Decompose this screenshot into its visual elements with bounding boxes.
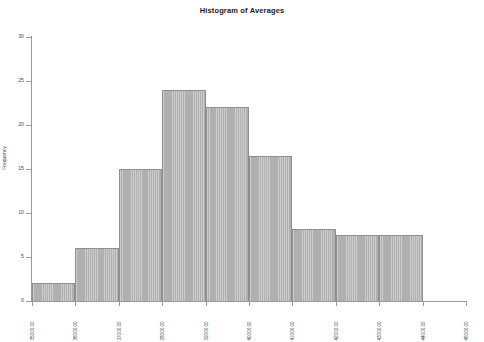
y-axis-tick-label-wrap: 5 <box>0 254 24 255</box>
x-axis-tick-label-wrap: 36000.00 <box>75 308 76 309</box>
y-axis-tick-label: 0 <box>2 298 24 303</box>
y-axis-tick-label: 15 <box>2 166 24 171</box>
histogram-bar <box>119 169 162 301</box>
y-axis-tick <box>26 257 31 258</box>
x-axis-tick-label-wrap: 40000.00 <box>249 308 250 309</box>
y-axis-tick-label-wrap: 25 <box>0 78 24 79</box>
y-axis-tick-label-wrap: 15 <box>0 166 24 167</box>
y-axis-tick-label-wrap: 0 <box>0 298 24 299</box>
x-axis-tick <box>292 302 293 306</box>
x-axis-tick-label-wrap: 45000.00 <box>466 308 467 309</box>
x-axis-tick-label: 39000.00 <box>203 309 208 341</box>
chart-title: Histogram of Averages <box>0 6 484 15</box>
y-axis-tick <box>26 81 31 82</box>
x-axis-tick-label: 41000.00 <box>290 309 295 341</box>
x-axis-tick <box>162 302 163 306</box>
y-axis-tick-label-wrap: 20 <box>0 122 24 123</box>
y-axis-tick-label: 25 <box>2 78 24 83</box>
x-axis-tick <box>206 302 207 306</box>
x-axis-tick <box>75 302 76 306</box>
x-axis-tick-label: 38000.00 <box>160 309 165 341</box>
x-axis-tick-label: 42000.00 <box>333 309 338 341</box>
x-axis-tick-label-wrap: 43000.00 <box>379 308 380 309</box>
x-axis-tick-label: 44000.00 <box>420 309 425 341</box>
x-axis-tick-label-wrap: 39000.00 <box>206 308 207 309</box>
y-axis-tick <box>26 125 31 126</box>
histogram-bar <box>206 107 249 301</box>
histogram-bar <box>292 229 335 301</box>
x-axis-tick <box>466 302 467 306</box>
histogram-bar <box>336 235 379 301</box>
y-axis-tick-label-wrap: 10 <box>0 210 24 211</box>
x-axis-tick <box>32 302 33 306</box>
x-axis-tick-label: 40000.00 <box>247 309 252 341</box>
x-axis-tick-label: 36000.00 <box>73 309 78 341</box>
x-axis-tick-label-wrap: 35000.00 <box>32 308 33 309</box>
x-axis-tick <box>119 302 120 306</box>
x-axis-tick-label: 37000.00 <box>116 309 121 341</box>
histogram-bar <box>162 90 205 301</box>
x-axis-tick-label: 45000.00 <box>464 309 469 341</box>
histogram-chart: Histogram of Averages Frequency 05101520… <box>0 0 484 342</box>
y-axis-tick <box>26 169 31 170</box>
plot-area <box>32 37 466 301</box>
y-axis-tick <box>26 213 31 214</box>
y-axis-tick-label: 10 <box>2 210 24 215</box>
x-axis-tick-label: 43000.00 <box>377 309 382 341</box>
x-axis-tick <box>423 302 424 306</box>
y-axis-tick-label: 20 <box>2 122 24 127</box>
histogram-bar <box>249 156 292 301</box>
x-axis-tick-label-wrap: 37000.00 <box>119 308 120 309</box>
y-axis-tick-label: 30 <box>2 34 24 39</box>
histogram-bar <box>379 235 422 301</box>
y-axis-tick-label-wrap: 30 <box>0 34 24 35</box>
x-axis-tick-label-wrap: 41000.00 <box>292 308 293 309</box>
y-axis-tick-label: 5 <box>2 254 24 259</box>
x-axis-tick <box>249 302 250 306</box>
histogram-bar <box>32 283 75 301</box>
y-axis-tick <box>26 301 31 302</box>
x-axis-tick <box>379 302 380 306</box>
y-axis-tick <box>26 37 31 38</box>
x-axis-tick-label-wrap: 38000.00 <box>162 308 163 309</box>
x-axis-tick-label: 35000.00 <box>30 309 35 341</box>
histogram-bar <box>75 248 118 301</box>
x-axis-tick-label-wrap: 44000.00 <box>423 308 424 309</box>
y-axis-title: Frequency <box>1 133 7 183</box>
x-axis-tick <box>336 302 337 306</box>
x-axis-tick-label-wrap: 42000.00 <box>336 308 337 309</box>
